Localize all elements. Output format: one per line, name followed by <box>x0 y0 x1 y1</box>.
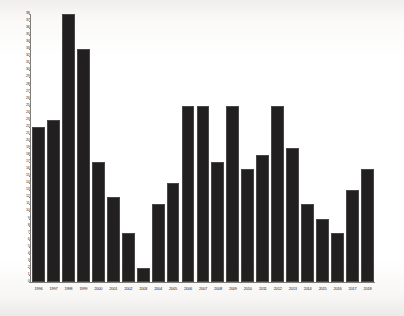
x-axis-tick-label: 1996 <box>31 287 46 291</box>
bar <box>92 162 105 282</box>
x-axis-tick-label: 2005 <box>166 287 181 291</box>
bar <box>182 106 195 282</box>
bar-series <box>31 14 375 282</box>
bar <box>241 169 254 282</box>
bar <box>361 169 374 282</box>
bar-column <box>360 14 375 282</box>
bar-column <box>345 14 360 282</box>
x-axis-tick-label: 1998 <box>61 287 76 291</box>
x-axis-tick-label: 2013 <box>285 287 300 291</box>
bar-column <box>46 14 61 282</box>
bar <box>137 268 150 282</box>
bar <box>256 155 269 282</box>
bar <box>226 106 239 282</box>
bar-column <box>61 14 76 282</box>
x-axis-tick-label: 2001 <box>106 287 121 291</box>
bar-column <box>181 14 196 282</box>
bar-column <box>121 14 136 282</box>
x-axis-tick-label: 2000 <box>91 287 106 291</box>
x-axis-tick-label: 2007 <box>195 287 210 291</box>
bar <box>62 14 75 282</box>
x-axis-tick-label: 2012 <box>270 287 285 291</box>
bar-column <box>166 14 181 282</box>
x-axis-tick-label: 2006 <box>181 287 196 291</box>
bar-column <box>330 14 345 282</box>
bar-column <box>76 14 91 282</box>
bar <box>331 233 344 282</box>
bar-column <box>225 14 240 282</box>
bar <box>301 204 314 282</box>
x-axis-tick-label: 2010 <box>240 287 255 291</box>
bar-column <box>136 14 151 282</box>
plot-area: 3837363534333231302928272625242322212019… <box>30 14 375 282</box>
bar-column <box>210 14 225 282</box>
bar <box>122 233 135 282</box>
bar-column <box>315 14 330 282</box>
bar <box>32 127 45 282</box>
bar <box>197 106 210 282</box>
x-axis-tick-label: 1997 <box>46 287 61 291</box>
x-axis-tick-labels: 1996199719981999200020012002200320042005… <box>31 287 375 291</box>
x-axis-tick-label: 2015 <box>315 287 330 291</box>
bar <box>316 219 329 282</box>
bar-column <box>195 14 210 282</box>
x-axis <box>30 282 375 283</box>
bar <box>47 120 60 282</box>
bar <box>271 106 284 282</box>
x-axis-tick-label: 2003 <box>136 287 151 291</box>
bar <box>211 162 224 282</box>
chart-page: 3837363534333231302928272625242322212019… <box>0 0 404 316</box>
x-axis-tick-label: 2008 <box>210 287 225 291</box>
x-axis-tick-label: 2011 <box>255 287 270 291</box>
x-axis-tick-label: 2002 <box>121 287 136 291</box>
x-axis-tick-label: 2004 <box>151 287 166 291</box>
bar-column <box>300 14 315 282</box>
bar-column <box>151 14 166 282</box>
bar-column <box>240 14 255 282</box>
bar <box>346 190 359 282</box>
bar <box>107 197 120 282</box>
x-axis-tick-label: 2014 <box>300 287 315 291</box>
bar-column <box>91 14 106 282</box>
bar <box>152 204 165 282</box>
x-axis-tick-label: 2018 <box>360 287 375 291</box>
x-axis-tick-label: 1999 <box>76 287 91 291</box>
bar-column <box>31 14 46 282</box>
bar <box>167 183 180 282</box>
x-axis-tick-label: 2009 <box>225 287 240 291</box>
bar-column <box>285 14 300 282</box>
bar <box>77 49 90 282</box>
bar-column <box>270 14 285 282</box>
x-axis-tick-label: 2016 <box>330 287 345 291</box>
bar <box>286 148 299 282</box>
x-axis-tick-label: 2017 <box>345 287 360 291</box>
bar-column <box>255 14 270 282</box>
bar-column <box>106 14 121 282</box>
